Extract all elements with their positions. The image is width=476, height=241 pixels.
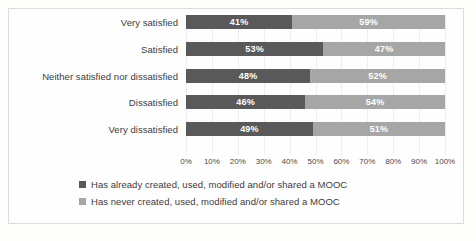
- stacked-bar: 46%54%: [186, 95, 445, 109]
- x-axis-tick: 50%: [307, 157, 323, 166]
- stacked-bar: 41%59%: [186, 15, 445, 29]
- bar-row: Neither satisfied nor dissatisfied48%52%: [9, 63, 463, 90]
- x-axis: 0%10%20%30%40%50%60%70%80%90%100%: [186, 157, 445, 171]
- x-axis-tick: 70%: [359, 157, 375, 166]
- x-axis-tick: 10%: [204, 157, 220, 166]
- bar-segment-never: 54%: [305, 95, 445, 109]
- legend-swatch-icon: [79, 198, 86, 205]
- x-axis-tick: 40%: [282, 157, 298, 166]
- bar-segment-created: 49%: [186, 122, 313, 136]
- stacked-bar: 49%51%: [186, 122, 445, 136]
- bar-segment-created: 41%: [186, 15, 292, 29]
- bar-segment-created: 48%: [186, 69, 310, 83]
- bar-row: Very satisfied41%59%: [9, 9, 463, 36]
- bar-row: Very dissatisfied49%51%: [9, 116, 463, 143]
- x-axis-tick: 20%: [230, 157, 246, 166]
- x-axis-tick: 90%: [411, 157, 427, 166]
- bar-segment-never: 51%: [313, 122, 445, 136]
- bar-segment-never: 47%: [323, 42, 445, 56]
- bar-segment-created: 53%: [186, 42, 323, 56]
- chart-legend: Has already created, used, modified and/…: [9, 179, 463, 213]
- x-axis-tick: 30%: [256, 157, 272, 166]
- bar-segment-never: 52%: [310, 69, 445, 83]
- category-label: Very dissatisfied: [9, 123, 178, 136]
- legend-item[interactable]: Has never created, used, modified and/or…: [9, 196, 463, 207]
- category-label: Satisfied: [9, 43, 178, 56]
- legend-swatch-icon: [79, 181, 86, 188]
- x-axis-tick: 80%: [385, 157, 401, 166]
- bar-segment-never: 59%: [292, 15, 445, 29]
- chart-figure: Very satisfied41%59%Satisfied53%47%Neith…: [8, 8, 464, 224]
- x-axis-tick: 0%: [180, 157, 192, 166]
- legend-label: Has never created, used, modified and/or…: [91, 196, 340, 207]
- plot-area: Very satisfied41%59%Satisfied53%47%Neith…: [9, 9, 463, 223]
- x-axis-tick: 100%: [435, 157, 455, 166]
- category-label: Very satisfied: [9, 16, 178, 29]
- bar-row: Satisfied53%47%: [9, 36, 463, 63]
- x-axis-tick: 60%: [333, 157, 349, 166]
- category-label: Dissatisfied: [9, 96, 178, 109]
- category-label: Neither satisfied nor dissatisfied: [9, 70, 178, 83]
- stacked-bar: 53%47%: [186, 42, 445, 56]
- legend-item[interactable]: Has already created, used, modified and/…: [9, 179, 463, 190]
- legend-label: Has already created, used, modified and/…: [91, 179, 347, 190]
- bar-segment-created: 46%: [186, 95, 305, 109]
- bar-row: Dissatisfied46%54%: [9, 89, 463, 116]
- stacked-bar: 48%52%: [186, 69, 445, 83]
